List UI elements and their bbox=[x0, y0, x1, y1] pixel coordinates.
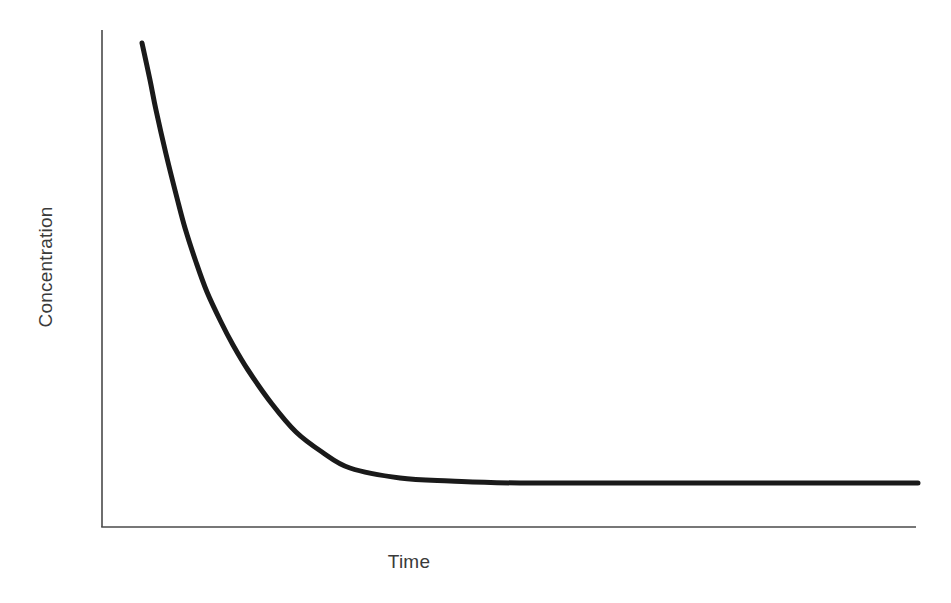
y-axis-label: Concentration bbox=[36, 207, 55, 328]
decay-curve-plot bbox=[0, 0, 951, 603]
plot-background bbox=[0, 0, 951, 603]
x-axis-label: Time bbox=[388, 552, 430, 571]
chart-figure: Concentration Time bbox=[0, 0, 951, 603]
